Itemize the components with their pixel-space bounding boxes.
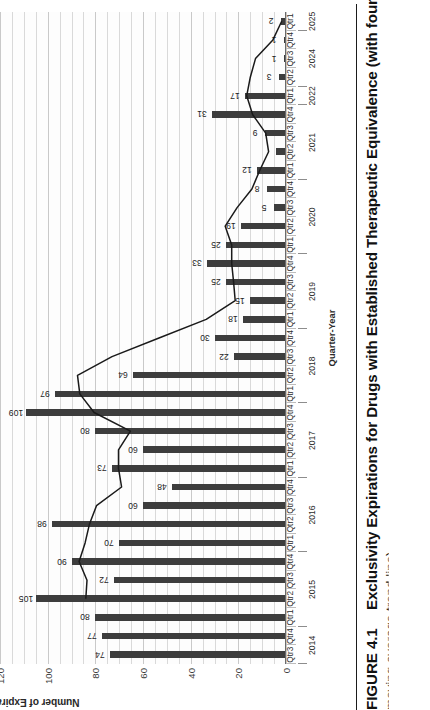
x-axis-quarter-label: Qtr1 — [286, 609, 295, 625]
quarter-divider — [286, 160, 296, 161]
figure-page: Number of Expirations 020406080100120 74… — [0, 0, 430, 710]
quarter-divider — [286, 421, 296, 422]
figure-title: Exclusivity Expirations for Drugs with E… — [363, 0, 380, 610]
quarter-divider — [286, 104, 296, 105]
quarter-divider — [286, 290, 296, 291]
x-axis-quarter-label: Qtr3 — [286, 349, 295, 365]
x-axis-quarter-label: Qtr1 — [286, 311, 295, 327]
quarter-divider — [286, 216, 296, 217]
x-axis-labels: Qtr3Qtr4Qtr1Qtr2Qtr3Qtr4Qtr1Qtr2Qtr3Qtr4… — [286, 12, 324, 664]
quarter-divider — [286, 346, 296, 347]
quarter-divider — [286, 626, 296, 627]
chart-region: Number of Expirations 020406080100120 74… — [0, 4, 352, 710]
x-axis-quarter-label: Qtr2 — [286, 516, 295, 532]
x-axis-quarter-label: Qtr2 — [286, 442, 295, 458]
quarter-divider — [286, 458, 296, 459]
quarter-divider — [286, 86, 296, 87]
quarter-divider — [286, 197, 296, 198]
quarter-divider — [286, 30, 296, 31]
x-axis-quarter-label: Qtr4 — [286, 181, 295, 197]
x-axis-year-label: 2016 — [307, 505, 317, 524]
year-divider — [298, 104, 307, 105]
x-axis-quarter-label: Qtr4 — [286, 330, 295, 346]
x-axis-year-label: 2018 — [307, 356, 317, 375]
moving-average-line — [0, 12, 286, 664]
y-axis-tick: 120 — [0, 668, 6, 684]
x-axis-year-label: 2015 — [307, 580, 317, 599]
year-divider — [298, 253, 307, 254]
x-axis-quarter-label: Qtr4 — [286, 628, 295, 644]
quarter-divider — [286, 644, 296, 645]
y-axis-tick: 0 — [281, 668, 292, 673]
x-axis-quarter-label: Qtr3 — [286, 200, 295, 216]
quarter-divider — [286, 272, 296, 273]
quarter-divider — [286, 253, 296, 254]
quarter-divider — [286, 663, 296, 664]
quarter-divider — [286, 533, 296, 534]
quarter-divider — [286, 402, 296, 403]
x-axis-quarter-label: Qtr3 — [286, 572, 295, 588]
quarter-divider — [286, 384, 296, 385]
x-axis-quarter-label: Qtr1 — [286, 237, 295, 253]
x-axis-year-label: 2021 — [307, 133, 317, 152]
year-divider — [298, 477, 307, 478]
x-axis-quarter-label: Qtr2 — [286, 293, 295, 309]
quarter-divider — [286, 495, 296, 496]
x-axis-quarter-label: Qtr4 — [286, 554, 295, 570]
x-axis-quarter-label: Qtr2 — [286, 144, 295, 160]
x-axis-quarter-label: Qtr1 — [286, 535, 295, 551]
plot-area: 7477801057290709860487360801099764223018… — [0, 12, 286, 664]
figure-number: FIGURE 4.1 — [363, 628, 380, 710]
x-axis-quarter-label: Qtr1 — [286, 162, 295, 178]
x-axis-title: Quarter-Year — [326, 12, 337, 664]
x-axis-year-label: 2017 — [307, 431, 317, 450]
x-axis-quarter-label: Qtr2 — [286, 591, 295, 607]
x-axis-year-label: 2019 — [307, 282, 317, 301]
x-axis-quarter-label: Qtr3 — [286, 51, 295, 67]
quarter-divider — [286, 365, 296, 366]
y-axis-ticks: 020406080100120 — [0, 666, 286, 696]
x-axis-quarter-label: Qtr3 — [286, 274, 295, 290]
quarter-divider — [286, 589, 296, 590]
x-axis-year-label: 2024 — [307, 49, 317, 68]
x-axis-quarter-label: Qtr1 — [286, 460, 295, 476]
quarter-divider — [286, 141, 296, 142]
x-axis-quarter-label: Qtr4 — [286, 256, 295, 272]
caption-line-1: FIGURE 4.1 Exclusivity Expirations for D… — [363, 4, 380, 710]
x-axis-year-label: 2014 — [307, 636, 317, 655]
trend-line — [78, 21, 282, 599]
y-axis-tick: 20 — [233, 668, 244, 679]
x-axis-quarter-label: Qtr3 — [286, 647, 295, 663]
y-axis-title: Number of Expirations — [0, 697, 96, 708]
x-axis-year-label: 2025 — [307, 12, 317, 31]
x-axis-quarter-label: Qtr3 — [286, 423, 295, 439]
caption-line-2: moving average trend line) — [383, 4, 398, 710]
year-divider — [298, 626, 307, 627]
quarter-divider — [286, 514, 296, 515]
quarter-divider — [286, 123, 296, 124]
x-axis-quarter-label: Qtr4 — [286, 405, 295, 421]
quarter-divider — [286, 235, 296, 236]
quarter-divider — [286, 439, 296, 440]
year-divider — [298, 179, 307, 180]
year-divider — [298, 86, 307, 87]
year-divider — [298, 663, 307, 664]
y-axis-tick: 100 — [42, 668, 53, 684]
quarter-divider — [286, 179, 296, 180]
quarter-divider — [286, 607, 296, 608]
quarter-divider — [286, 570, 296, 571]
figure-caption: FIGURE 4.1 Exclusivity Expirations for D… — [356, 4, 430, 710]
x-axis-quarter-label: Qtr2 — [286, 218, 295, 234]
x-axis-quarter-label: Qtr4 — [286, 479, 295, 495]
x-axis-year-label: 2020 — [307, 207, 317, 226]
y-axis-tick: 60 — [138, 668, 149, 679]
year-divider — [298, 402, 307, 403]
x-axis-quarter-label: Qtr2 — [286, 367, 295, 383]
quarter-divider — [286, 477, 296, 478]
x-axis-quarter-label: Qtr4 — [286, 107, 295, 123]
quarter-divider — [286, 328, 296, 329]
quarter-divider — [286, 309, 296, 310]
quarter-divider — [286, 48, 296, 49]
y-axis-tick: 80 — [90, 668, 101, 679]
x-axis-quarter-label: Qtr1 — [286, 88, 295, 104]
